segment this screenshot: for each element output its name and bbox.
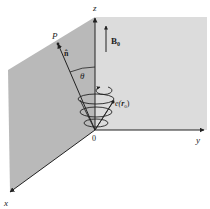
theta-label: θ [80, 71, 85, 81]
origin-label: 0 [92, 134, 96, 143]
precession-diagram: z y x 0 P n̂ θ B0 e(r0) [0, 0, 210, 209]
z-label: z [92, 3, 97, 13]
unit-vector-label: n̂ [64, 49, 69, 58]
point-p-dot [57, 43, 60, 46]
point-p-label: P [51, 31, 58, 41]
charge-label: e(r0) [115, 99, 130, 109]
x-label: x [3, 198, 8, 208]
y-label: y [195, 135, 200, 145]
